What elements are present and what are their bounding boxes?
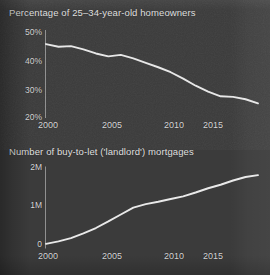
x-tick-label-2015-bottom: 2015 bbox=[191, 251, 235, 261]
chart-panel-homeownership: Percentage of 25–34-year-old homeowners … bbox=[0, 0, 270, 138]
x-tick-label-2010-top: 2010 bbox=[152, 120, 196, 130]
x-tick-label-2015-top: 2015 bbox=[191, 120, 235, 130]
data-line-homeownership bbox=[46, 44, 258, 103]
x-tick-label-2005-top: 2005 bbox=[90, 120, 134, 130]
x-tick-label-2000-top: 2000 bbox=[26, 120, 70, 130]
x-tick-label-2000-bottom: 2000 bbox=[26, 251, 70, 261]
y-tick-label-40: 40% bbox=[14, 56, 42, 66]
chart-panel-buy-to-let: Number of buy-to-let ('landlord') mortga… bbox=[0, 138, 270, 275]
y-tick-label-2m: 2M bbox=[14, 162, 42, 172]
y-tick-label-0: 0 bbox=[14, 239, 42, 249]
y-tick-label-30: 30% bbox=[14, 85, 42, 95]
figure-screenshot: Percentage of 25–34-year-old homeowners … bbox=[0, 0, 270, 275]
y-tick-label-1m: 1M bbox=[14, 200, 42, 210]
x-tick-label-2010-bottom: 2010 bbox=[152, 251, 196, 261]
x-tick-label-2005-bottom: 2005 bbox=[90, 251, 134, 261]
data-line-buy-to-let bbox=[46, 175, 258, 244]
y-tick-label-50: 50% bbox=[14, 27, 42, 37]
